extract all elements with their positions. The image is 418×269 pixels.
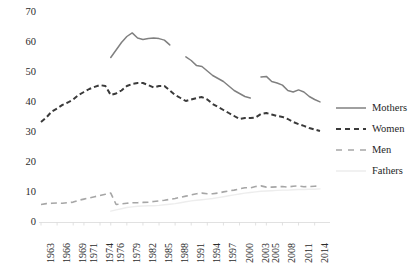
x-tick-label: 2014 [319, 243, 330, 263]
x-tick-label: 1971 [88, 243, 99, 263]
legend-item-women[interactable]: Women [336, 118, 418, 139]
legend-item-mothers[interactable]: Mothers [336, 97, 418, 118]
x-tick-label: 1997 [227, 243, 238, 263]
x-tick-label: 1982 [147, 243, 158, 263]
series-line-women [41, 83, 320, 131]
x-tick-label: 1991 [195, 243, 206, 263]
line-chart: 010203040506070 196319661969197119741976… [0, 0, 418, 269]
x-tick-label: 1976 [115, 243, 126, 263]
x-tick-label: 1985 [163, 243, 174, 263]
series-line-mothers [261, 76, 320, 102]
series-line-mothers [111, 33, 170, 58]
legend-swatch-icon [336, 166, 366, 176]
legend-swatch-icon [336, 124, 366, 134]
x-tick-label: 2008 [286, 243, 297, 263]
x-tick-label: 1966 [61, 243, 72, 263]
y-tick-label: 70 [14, 7, 36, 18]
y-tick-label: 40 [14, 97, 36, 108]
legend-label: Women [372, 123, 404, 134]
series-line-fathers [111, 189, 320, 211]
x-tick-label: 1994 [211, 243, 222, 263]
series-line-mothers [186, 57, 250, 98]
legend-swatch-icon [336, 145, 366, 155]
legend-swatch-icon [336, 103, 366, 113]
x-tick-label: 2005 [270, 243, 281, 263]
x-tick-label: 2011 [303, 243, 314, 263]
x-tick-label: 1969 [77, 243, 88, 263]
x-tick-label: 1988 [179, 243, 190, 263]
legend-label: Mothers [372, 102, 407, 113]
x-tick-label: 2000 [244, 243, 255, 263]
legend-label: Fathers [372, 165, 403, 176]
y-tick-label: 30 [14, 127, 36, 138]
legend-item-men[interactable]: Men [336, 139, 418, 160]
series-line-men [41, 186, 320, 205]
y-tick-label: 20 [14, 157, 36, 168]
legend-item-fathers[interactable]: Fathers [336, 160, 418, 181]
legend-label: Men [372, 144, 391, 155]
x-tick-label: 2003 [260, 243, 271, 263]
x-tick-label: 1979 [131, 243, 142, 263]
chart-legend: MothersWomenMenFathers [336, 97, 418, 181]
y-tick-label: 10 [14, 187, 36, 198]
x-tick-label: 1974 [104, 243, 115, 263]
y-tick-label: 50 [14, 67, 36, 78]
x-tick-label: 1963 [45, 243, 56, 263]
y-tick-label: 0 [14, 217, 36, 228]
y-tick-label: 60 [14, 37, 36, 48]
